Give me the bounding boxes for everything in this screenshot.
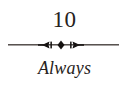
chapter-heading-page: 10 Always: [0, 0, 129, 88]
ornamental-divider: [8, 38, 119, 52]
chapter-number: 10: [0, 7, 129, 33]
ornamental-rule-icon: [8, 38, 119, 52]
chapter-title: Always: [0, 57, 129, 79]
